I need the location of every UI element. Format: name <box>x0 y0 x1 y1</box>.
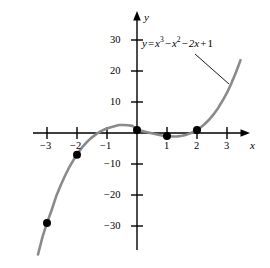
y-tick-label--30: −30 <box>104 221 120 232</box>
y-tick-label-20: 20 <box>110 66 121 77</box>
equation-leader-line <box>195 54 229 84</box>
y-tick-label--10: −10 <box>104 159 120 170</box>
plotted-points <box>43 126 201 227</box>
y-axis-label: y <box>144 12 149 23</box>
x-tick-label--1: −1 <box>100 141 111 152</box>
x-axis-label: x <box>250 140 255 151</box>
equation-minus-2: − <box>181 37 189 49</box>
data-point <box>43 219 51 227</box>
y-tick-label-30: 30 <box>110 35 121 46</box>
equation-label: y=x3−x2−2x+1 <box>142 38 213 49</box>
data-point <box>163 132 171 140</box>
graph-figure: −3 −2 −1 1 2 3 30 20 10 −10 −20 −30 y x … <box>0 0 270 268</box>
plot-canvas <box>0 0 270 268</box>
equation-minus-1: − <box>164 37 172 49</box>
x-tick-label-1: 1 <box>164 141 169 152</box>
data-point <box>73 151 81 159</box>
x-tick-label--2: −2 <box>70 141 81 152</box>
data-point <box>133 126 141 134</box>
y-tick-label-10: 10 <box>110 97 121 108</box>
equation-term3: 2x <box>189 37 199 49</box>
equation-equals: = <box>147 37 155 49</box>
data-point <box>193 126 201 134</box>
y-tick-label--20: −20 <box>104 190 120 201</box>
x-tick-label--3: −3 <box>40 141 51 152</box>
equation-term4: 1 <box>207 37 213 49</box>
x-tick-label-3: 3 <box>224 141 229 152</box>
x-tick-label-2: 2 <box>194 141 199 152</box>
